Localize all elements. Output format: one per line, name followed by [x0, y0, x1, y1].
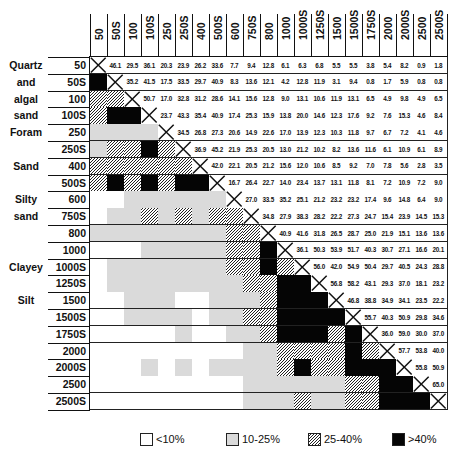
row-label: 250 — [50, 126, 88, 138]
value-cell: 34.9 — [379, 292, 397, 309]
value-cell: 10.9 — [396, 175, 414, 192]
value-cell: 31.8 — [311, 225, 329, 242]
shaded-cell-g — [124, 309, 142, 326]
value-cell: 34.1 — [396, 292, 414, 309]
shaded-cell-g — [141, 191, 159, 208]
shaded-cell-g — [226, 309, 244, 326]
value-cell: 10.6 — [311, 91, 329, 108]
value-cell: 50.3 — [311, 242, 329, 259]
shaded-cell-w — [192, 393, 210, 410]
value-cell: 11.9 — [328, 91, 346, 108]
shaded-cell-w — [124, 376, 142, 393]
row-divider — [48, 393, 90, 394]
value-cell: 2.8 — [413, 158, 431, 175]
value-cell: 3.5 — [430, 158, 448, 175]
value-cell: 11.9 — [311, 74, 329, 91]
value-cell: 25.1 — [294, 191, 312, 208]
column-label: 2000 — [379, 8, 396, 54]
value-cell: 42.0 — [209, 158, 227, 175]
value-cell: 1.7 — [379, 74, 397, 91]
shaded-cell-w — [124, 242, 142, 259]
shaded-cell-g — [158, 191, 176, 208]
value-cell: 3.8 — [362, 57, 380, 74]
row-label: 1500 — [50, 294, 88, 306]
row-divider — [48, 175, 90, 176]
value-cell: 7.2 — [396, 124, 414, 141]
row-divider — [48, 376, 90, 377]
shaded-cell-b — [379, 376, 397, 393]
value-cell: 8.1 — [362, 175, 380, 192]
shaded-cell-h — [107, 91, 125, 108]
value-cell: 56.8 — [328, 275, 346, 292]
value-cell: 4.9 — [379, 91, 397, 108]
column-divider — [260, 14, 262, 57]
shaded-cell-b — [260, 242, 278, 259]
value-cell: 23.9 — [396, 208, 414, 225]
value-cell: 26.8 — [192, 124, 210, 141]
shaded-cell-g — [124, 208, 142, 225]
value-cell: 14.0 — [277, 175, 295, 192]
value-cell: 59.0 — [396, 326, 414, 343]
shaded-cell-g — [311, 393, 329, 410]
value-cell: 5.5 — [328, 57, 346, 74]
shaded-cell-g — [124, 259, 142, 276]
shaded-cell-g — [175, 275, 193, 292]
column-label-text: 1750S — [365, 10, 377, 40]
legend-swatch-icon — [226, 433, 239, 446]
row-label: 600 — [50, 193, 88, 205]
value-cell: 0.8 — [362, 74, 380, 91]
value-cell: 56.0 — [311, 259, 329, 276]
value-cell: 31.2 — [192, 91, 210, 108]
shaded-cell-h — [124, 158, 142, 175]
value-cell: 20.6 — [226, 124, 244, 141]
shaded-cell-w — [90, 343, 108, 360]
row-divider — [48, 158, 90, 159]
shaded-cell-g — [107, 208, 125, 225]
row-label: 400 — [50, 160, 88, 172]
shaded-cell-g — [124, 275, 142, 292]
shaded-cell-g — [141, 242, 159, 259]
shaded-cell-g — [226, 292, 244, 309]
row-divider — [48, 359, 90, 360]
shaded-cell-b — [294, 292, 312, 309]
shaded-cell-w — [107, 292, 125, 309]
shaded-cell-h — [107, 141, 125, 158]
value-cell: 41.5 — [141, 74, 159, 91]
shaded-cell-g — [124, 225, 142, 242]
value-cell: 7.6 — [379, 107, 397, 124]
value-cell: 22.2 — [430, 292, 448, 309]
value-cell: 7.7 — [226, 57, 244, 74]
shaded-cell-b — [107, 107, 125, 124]
shaded-cell-g — [192, 242, 210, 259]
shaded-cell-h — [90, 107, 108, 124]
shaded-cell-g — [107, 275, 125, 292]
column-label: 1250S — [311, 8, 328, 54]
value-cell: 21.2 — [311, 191, 329, 208]
row-divider — [48, 141, 90, 142]
value-cell: 58.2 — [345, 275, 363, 292]
shaded-cell-h — [328, 343, 346, 360]
column-label: 1000 — [277, 8, 294, 54]
shaded-cell-g — [243, 292, 261, 309]
column-label-text: 800 — [263, 22, 275, 40]
value-cell: 13.6 — [243, 74, 261, 91]
shaded-cell-w — [90, 359, 108, 376]
row-label: 1000 — [50, 244, 88, 256]
shaded-cell-b — [362, 359, 380, 376]
shaded-cell-b — [311, 326, 329, 343]
value-cell: 17.0 — [277, 124, 295, 141]
shaded-cell-h — [277, 359, 295, 376]
shaded-cell-g — [243, 376, 261, 393]
row-divider — [48, 91, 90, 92]
column-divider — [141, 14, 143, 57]
value-cell: 11.8 — [345, 175, 363, 192]
shaded-cell-h — [243, 259, 261, 276]
x-mark-icon — [379, 343, 396, 359]
group-label: Sand — [4, 160, 48, 172]
column-divider — [328, 14, 330, 57]
value-cell: 7.0 — [362, 158, 380, 175]
shaded-cell-w — [107, 242, 125, 259]
shaded-cell-g — [107, 225, 125, 242]
diagonal-cell — [294, 259, 312, 276]
shaded-cell-g — [175, 259, 193, 276]
